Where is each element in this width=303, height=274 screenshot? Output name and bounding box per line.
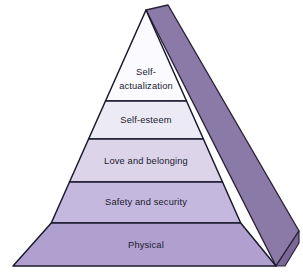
tier-label-safety-and-security: Safety and security [105, 197, 187, 207]
tier-label-self-actualization-line2: actualization [119, 81, 173, 91]
tier-label-self-esteem: Self-esteem [120, 115, 171, 125]
tier-label-love-and-belonging: Love and belonging [104, 156, 188, 166]
pyramid-diagram: Self- actualization Self-esteem Love and… [0, 0, 303, 274]
tier-label-physical: Physical [128, 240, 164, 250]
tier-label-self-actualization-line1: Self- [136, 67, 156, 77]
pyramid-svg: Self- actualization Self-esteem Love and… [0, 0, 303, 274]
